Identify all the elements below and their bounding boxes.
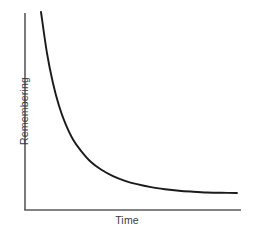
decay-curve	[41, 12, 237, 193]
y-axis-label: Remembering	[18, 11, 30, 211]
x-axis-label: Time	[0, 214, 254, 226]
plot-area	[0, 0, 254, 237]
forgetting-curve-chart: Remembering Time	[0, 0, 254, 237]
